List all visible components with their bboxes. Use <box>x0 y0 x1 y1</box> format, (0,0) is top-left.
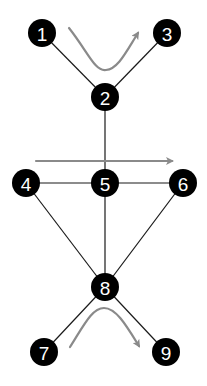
node-3: 3 <box>153 19 181 47</box>
node-label: 3 <box>162 24 173 45</box>
edge-4-8 <box>26 183 105 287</box>
graph-diagram: 1 2 3 4 5 6 7 8 9 <box>0 0 207 386</box>
curved-arrow-top <box>69 28 138 70</box>
node-label: 1 <box>37 24 48 45</box>
node-5: 5 <box>91 169 119 197</box>
node-7: 7 <box>30 338 58 366</box>
node-label: 9 <box>161 343 172 364</box>
node-4: 4 <box>12 169 40 197</box>
node-6: 6 <box>169 169 197 197</box>
node-label: 4 <box>21 174 32 195</box>
node-label: 6 <box>178 174 189 195</box>
node-label: 5 <box>100 174 111 195</box>
node-1: 1 <box>28 19 56 47</box>
node-9: 9 <box>152 338 180 366</box>
node-label: 7 <box>39 343 50 364</box>
node-label: 2 <box>100 88 111 109</box>
node-8: 8 <box>91 273 119 301</box>
node-2: 2 <box>91 83 119 111</box>
edge-6-8 <box>105 183 183 287</box>
node-label: 8 <box>100 278 111 299</box>
